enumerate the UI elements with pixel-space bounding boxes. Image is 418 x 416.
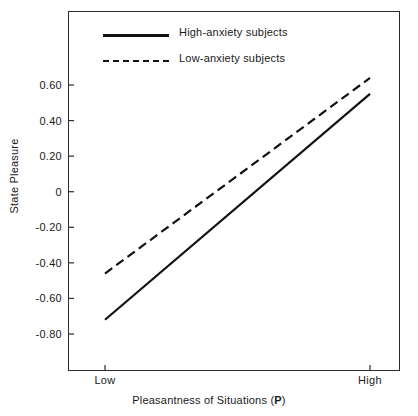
y-tick-label: 0.40 xyxy=(39,115,62,127)
chart-figure: 0.600.400.200-0.20-0.40-0.60-0.80 State … xyxy=(0,0,418,416)
x-tick-label-low: Low xyxy=(94,374,115,386)
y-tick-label: -0.20 xyxy=(35,221,62,233)
x-axis-title-prefix: Pleasantness of Situations ( xyxy=(132,394,274,406)
y-tick-label: -0.40 xyxy=(35,257,62,269)
y-tick-label: -0.80 xyxy=(35,328,62,340)
legend-label-high-anxiety: High-anxiety subjects xyxy=(179,26,288,38)
legend-line-sample-solid-icon xyxy=(103,34,169,37)
legend-line-sample-dashed-icon xyxy=(103,60,169,62)
y-tick-label: 0.60 xyxy=(39,79,62,91)
x-axis-title-variable: P xyxy=(274,394,282,406)
x-tick-label-high: High xyxy=(358,374,382,386)
legend-label-low-anxiety: Low-anxiety subjects xyxy=(179,52,285,64)
y-tick-label: 0.20 xyxy=(39,150,62,162)
y-axis-title: State Pleasure xyxy=(8,126,20,226)
x-axis-title: Pleasantness of Situations (P) xyxy=(0,394,418,406)
chart-legend: High-anxiety subjects Low-anxiety subjec… xyxy=(103,22,313,74)
y-tick-label: 0 xyxy=(56,186,62,198)
legend-item-low-anxiety: Low-anxiety subjects xyxy=(103,48,313,74)
y-tick-label: -0.60 xyxy=(35,292,62,304)
x-axis-title-suffix: ) xyxy=(282,394,286,406)
legend-item-high-anxiety: High-anxiety subjects xyxy=(103,22,313,48)
